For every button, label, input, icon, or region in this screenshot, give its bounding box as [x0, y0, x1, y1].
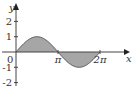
y-axis-label: y [8, 2, 15, 13]
x-tick-label: π [54, 54, 62, 65]
y-tick-label: 1 [6, 31, 12, 42]
y-tick-label: 2 [6, 16, 12, 27]
x-axis-label: x [126, 53, 132, 64]
y-tick-label: -2 [2, 77, 12, 87]
origin-label: 0 [7, 54, 13, 65]
sine-area-chart: π2π21-1-2 x y 0 [0, 0, 134, 87]
x-tick-label: 2π [93, 54, 107, 65]
